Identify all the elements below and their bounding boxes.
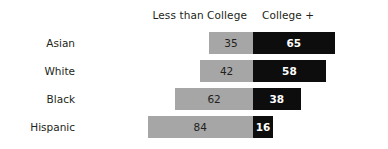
- legend-label-less-than-college: Less than College: [153, 9, 247, 21]
- row-label-asian: Asian: [46, 32, 75, 54]
- bar-value-college-plus: 58: [253, 60, 326, 82]
- row-label-black: Black: [47, 88, 75, 110]
- chart-row: Asian3565: [0, 32, 388, 54]
- bar-segment-less-than-college: 42: [200, 60, 253, 82]
- bar-segment-less-than-college: 35: [209, 32, 253, 54]
- bar-value-less-than-college: 42: [200, 60, 253, 82]
- bar-segment-less-than-college: 84: [148, 116, 253, 138]
- row-label-hispanic: Hispanic: [30, 116, 75, 138]
- chart-row: Hispanic8416: [0, 116, 388, 138]
- row-label-white: White: [44, 60, 75, 82]
- bar-value-college-plus: 16: [253, 116, 273, 138]
- bar-value-college-plus: 38: [253, 88, 301, 110]
- chart-row: White4258: [0, 60, 388, 82]
- legend-label-college-plus: College +: [262, 9, 314, 21]
- bar-segment-college-plus: 16: [253, 116, 273, 138]
- bar-segment-college-plus: 38: [253, 88, 301, 110]
- bar-value-less-than-college: 84: [148, 116, 253, 138]
- bar-segment-less-than-college: 62: [175, 88, 253, 110]
- bar-segment-college-plus: 65: [253, 32, 335, 54]
- bar-segment-college-plus: 58: [253, 60, 326, 82]
- chart-row: Black6238: [0, 88, 388, 110]
- bar-value-college-plus: 65: [253, 32, 335, 54]
- bar-value-less-than-college: 35: [209, 32, 253, 54]
- diverging-stacked-bar-chart: Less than College College + Asian3565Whi…: [0, 0, 388, 149]
- bar-value-less-than-college: 62: [175, 88, 253, 110]
